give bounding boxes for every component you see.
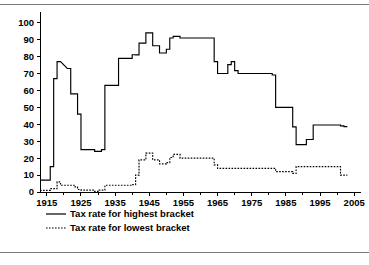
chart-svg: 0102030405060708090100 19151925193519451… [0, 6, 369, 250]
y-tick-label: 20 [23, 153, 34, 164]
y-tick-label: 70 [23, 68, 34, 79]
y-tick-label: 40 [23, 119, 34, 130]
chart-page: 0102030405060708090100 19151925193519451… [0, 0, 369, 265]
x-tick-label: 1975 [241, 197, 263, 208]
x-axis-ticks: 1915192519351945195519651975198519952005 [36, 192, 365, 208]
y-tick-label: 60 [23, 85, 34, 96]
x-tick-label: 1925 [70, 197, 92, 208]
y-tick-label: 100 [18, 17, 34, 28]
x-tick-label: 2005 [344, 197, 366, 208]
x-tick-label: 1985 [275, 197, 297, 208]
x-tick-label: 1995 [309, 197, 331, 208]
top-divider-rule [0, 4, 369, 5]
y-tick-label: 50 [23, 102, 34, 113]
series-line-highest-bracket [40, 33, 347, 180]
y-axis-ticks: 0102030405060708090100 [18, 17, 40, 197]
legend-label-lowest-bracket: Tax rate for lowest bracket [70, 222, 191, 233]
x-tick-label: 1965 [207, 197, 229, 208]
y-tick-label: 90 [23, 34, 34, 45]
chart-legend: Tax rate for highest bracketTax rate for… [46, 208, 195, 233]
bottom-divider-rule [0, 252, 369, 253]
y-tick-label: 0 [29, 186, 34, 197]
series-line-lowest-bracket [40, 153, 347, 191]
x-tick-label: 1945 [139, 197, 161, 208]
y-tick-label: 10 [23, 169, 34, 180]
y-tick-label: 80 [23, 51, 34, 62]
y-tick-label: 30 [23, 136, 34, 147]
x-tick-label: 1935 [105, 197, 127, 208]
x-tick-label: 1955 [173, 197, 195, 208]
tax-rate-line-chart: 0102030405060708090100 19151925193519451… [0, 6, 369, 250]
x-tick-label: 1915 [36, 197, 58, 208]
legend-label-highest-bracket: Tax rate for highest bracket [70, 208, 195, 219]
